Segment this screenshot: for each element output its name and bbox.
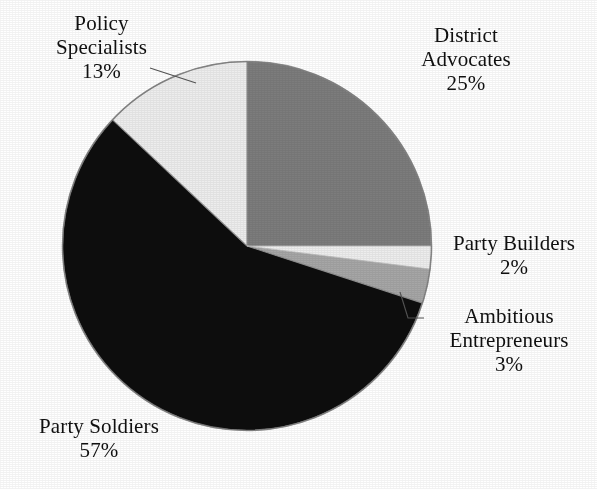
pie-chart-svg (61, 60, 433, 432)
pie-label-party-soldiers-line1: Party Soldiers (8, 415, 190, 439)
pie-label-ambitious-entrepreneurs-line2: Entrepreneurs (424, 329, 594, 353)
pie-label-party-soldiers: Party Soldiers 57% (8, 415, 190, 463)
pie-label-district-advocates-line2: Advocates (376, 48, 556, 72)
pie-label-policy-specialists-line2: Specialists (14, 36, 189, 60)
pie-label-party-builders-percent: 2% (435, 256, 593, 280)
pie-label-policy-specialists-percent: 13% (14, 60, 189, 84)
pie-label-ambitious-entrepreneurs-line1: Ambitious (424, 305, 594, 329)
pie-label-party-builders-line1: Party Builders (435, 232, 593, 256)
pie-label-ambitious-entrepreneurs-percent: 3% (424, 353, 594, 377)
pie-label-party-soldiers-percent: 57% (8, 439, 190, 463)
pie-chart-figure: Policy Specialists 13% District Advocate… (0, 0, 597, 489)
pie-label-policy-specialists-line1: Policy (14, 12, 189, 36)
pie-label-district-advocates-line1: District (376, 24, 556, 48)
pie-label-district-advocates-percent: 25% (376, 72, 556, 96)
pie-label-policy-specialists: Policy Specialists 13% (14, 12, 189, 84)
pie-label-party-builders: Party Builders 2% (435, 232, 593, 280)
pie-label-ambitious-entrepreneurs: Ambitious Entrepreneurs 3% (424, 305, 594, 377)
pie-chart (61, 60, 433, 432)
pie-label-district-advocates: District Advocates 25% (376, 24, 556, 96)
